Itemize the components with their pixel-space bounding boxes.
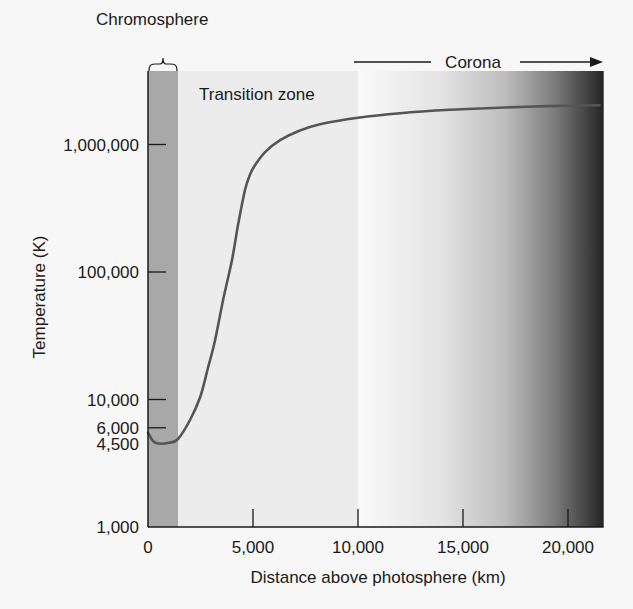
temperature-profile-chart: 05,00010,00015,00020,000 1,0004,5006,000… bbox=[0, 0, 633, 609]
chromosphere-label: Chromosphere bbox=[96, 10, 208, 29]
x-tick-label: 10,000 bbox=[332, 538, 384, 557]
y-axis-label: Temperature (K) bbox=[30, 236, 49, 359]
y-tick-label: 1,000,000 bbox=[63, 136, 139, 155]
transition-zone-label: Transition zone bbox=[199, 85, 315, 104]
arrow-right-icon bbox=[590, 57, 603, 67]
corona-region bbox=[358, 71, 604, 527]
transition-zone-region bbox=[178, 71, 358, 527]
x-tick-label: 5,000 bbox=[232, 538, 275, 557]
x-tick-label: 20,000 bbox=[542, 538, 594, 557]
chart-svg: 05,00010,00015,00020,000 1,0004,5006,000… bbox=[0, 0, 633, 609]
y-tick-label: 1,000 bbox=[96, 518, 139, 537]
y-tick-label: 10,000 bbox=[87, 391, 139, 410]
chromosphere-brace-icon bbox=[149, 58, 177, 71]
chromosphere-region bbox=[148, 71, 178, 527]
x-tick-label: 0 bbox=[143, 538, 152, 557]
y-tick-label: 6,000 bbox=[96, 419, 139, 438]
x-axis-label: Distance above photosphere (km) bbox=[250, 568, 505, 587]
y-tick-label: 100,000 bbox=[78, 263, 139, 282]
x-tick-label: 15,000 bbox=[437, 538, 489, 557]
plot-regions bbox=[148, 71, 604, 527]
corona-label: Corona bbox=[445, 53, 501, 72]
